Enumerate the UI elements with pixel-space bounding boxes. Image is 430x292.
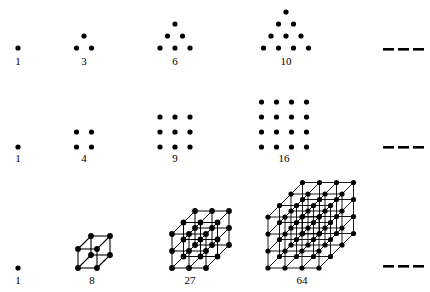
square-dot (274, 144, 279, 149)
cube64-node (294, 220, 299, 225)
cube27-node (209, 225, 215, 231)
square-dot (289, 129, 294, 134)
cube64-node (351, 214, 356, 219)
cube64-node (334, 214, 339, 219)
cube64-node (299, 265, 304, 270)
cube8-node (88, 233, 94, 239)
cube64-node (305, 242, 310, 247)
triangular-dot (276, 21, 281, 26)
triangular-dot (15, 45, 20, 50)
cube8-node (75, 265, 81, 271)
triangular-dot (187, 45, 192, 50)
cube8-node (75, 246, 81, 252)
cube27-node (192, 242, 198, 248)
square-dot (187, 129, 192, 134)
cube27-node (181, 220, 187, 226)
triangular-dot (283, 33, 288, 38)
square-dot (89, 129, 94, 134)
cube64-node (339, 208, 344, 213)
cube27-node (186, 265, 192, 271)
cube64-node (282, 231, 287, 236)
triangular-dot (283, 9, 288, 14)
ellipsis-dash (383, 265, 394, 268)
triangular-dot (172, 45, 177, 50)
cube64-node (339, 191, 344, 196)
ellipsis-dash (413, 265, 424, 268)
cube27-node (169, 248, 175, 254)
cube27-node (215, 254, 221, 260)
cube8-node (107, 233, 113, 239)
label-triangular-10: 10 (281, 56, 292, 67)
cube27-node (226, 225, 232, 231)
square-dot (172, 144, 177, 149)
triangular-dot (165, 33, 170, 38)
cube64-node (288, 242, 293, 247)
label-triangular-6: 6 (172, 56, 178, 67)
cube64-node (277, 254, 282, 259)
label-triangular-3: 3 (81, 56, 87, 67)
cube64-node (328, 220, 333, 225)
cube64-node (316, 214, 321, 219)
cube27-node (215, 220, 221, 226)
cube64-node (300, 197, 305, 202)
cube64-node (299, 248, 304, 253)
ellipsis-dash (413, 146, 424, 149)
cube27-node (203, 265, 209, 271)
square-dot (74, 129, 79, 134)
cube64-node (322, 208, 327, 213)
cube27-node (215, 237, 221, 243)
square-dot (187, 114, 192, 119)
square-dot (172, 129, 177, 134)
label-cubic-8: 8 (89, 275, 95, 286)
cube64-node (305, 225, 310, 230)
square-dot (304, 114, 309, 119)
label-cubic-1: 1 (15, 275, 21, 286)
cube64-node (311, 254, 316, 259)
label-triangular-1: 1 (15, 56, 21, 67)
triangular-dot (291, 21, 296, 26)
cube64-node (265, 248, 270, 253)
square-dot (259, 144, 264, 149)
ellipsis-dash (398, 265, 409, 268)
cube27-node (186, 231, 192, 237)
label-cubic-64: 64 (297, 275, 308, 286)
cube64-node (282, 214, 287, 219)
cube64-node (277, 237, 282, 242)
cube64-node (294, 237, 299, 242)
triangular-dot (291, 45, 296, 50)
cube64-node (339, 242, 344, 247)
triangular-dot (157, 45, 162, 50)
cube64-node (328, 237, 333, 242)
cube64-node (334, 231, 339, 236)
triangular-dot (89, 45, 94, 50)
cube64-node (305, 208, 310, 213)
cube64-node (322, 242, 327, 247)
cube27-node (198, 237, 204, 243)
cube8-node (88, 252, 94, 258)
ellipsis-dash (398, 48, 409, 51)
cube64-node (265, 231, 270, 236)
cube64-node (316, 231, 321, 236)
square-dot (274, 99, 279, 104)
figurate-numbers-figure: 1 3 6 10 1 4 9 16 1 8 27 64 (0, 0, 430, 292)
cube27-node (169, 231, 175, 237)
square-dot (15, 144, 20, 149)
cube64-node (339, 225, 344, 230)
cube64-node (351, 231, 356, 236)
cube64-node (328, 203, 333, 208)
square-dot (157, 144, 162, 149)
cube64-node (277, 203, 282, 208)
cube64-node (288, 208, 293, 213)
triangular-dot (180, 33, 185, 38)
cube8-node (107, 252, 113, 258)
cube64-node (334, 180, 339, 185)
cube27-node (181, 237, 187, 243)
cube27-node (226, 242, 232, 248)
cube64-node (265, 214, 270, 219)
label-square-4: 4 (81, 153, 87, 164)
cube27-node (198, 254, 204, 260)
triangular-dot (298, 33, 303, 38)
ellipsis-dash (383, 146, 394, 149)
cubic-dot (15, 265, 20, 270)
label-square-1: 1 (15, 153, 21, 164)
